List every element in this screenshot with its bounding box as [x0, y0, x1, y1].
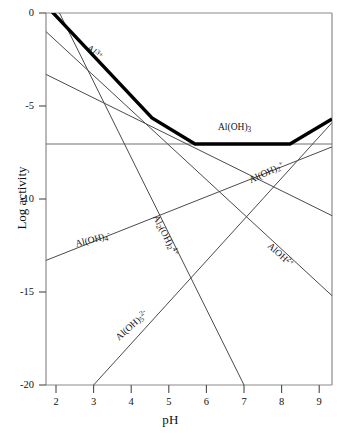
- x-axis-ticks: [56, 385, 319, 393]
- x-tick-label-6: 6: [196, 396, 216, 407]
- y-axis-title: Log activity: [14, 128, 30, 268]
- y-tick-label-m15: -15: [4, 286, 34, 297]
- plot-area: [0, 0, 341, 434]
- x-tick-label-5: 5: [159, 396, 179, 407]
- y-tick-label-0: 0: [4, 7, 34, 18]
- x-tick-label-3: 3: [84, 396, 104, 407]
- solubility-diagram-figure: 0 -5 -10 -15 -20 2 3 4 5 6 7 8 9 pH Log …: [0, 0, 341, 434]
- x-tick-label-2: 2: [46, 396, 66, 407]
- curve-label-aloh3-text: Al(OH): [218, 122, 248, 132]
- x-tick-label-8: 8: [272, 396, 292, 407]
- x-tick-label-9: 9: [309, 396, 329, 407]
- x-axis-title: pH: [0, 412, 341, 428]
- y-tick-label-m5: -5: [4, 100, 34, 111]
- x-tick-label-4: 4: [121, 396, 141, 407]
- curve-aloh5-2minus: [94, 123, 332, 385]
- x-tick-label-7: 7: [234, 396, 254, 407]
- curve-label-aloh3-sub: 3: [248, 126, 252, 134]
- curve-label-aloh3: Al(OH)3: [218, 122, 251, 134]
- curve-al2oh2-4plus: [60, 13, 245, 385]
- y-tick-label-m20: -20: [4, 379, 34, 390]
- plot-frame: [46, 13, 332, 385]
- curve-aloh3-solubility-envelope: [50, 10, 332, 144]
- y-axis-ticks: [39, 13, 46, 385]
